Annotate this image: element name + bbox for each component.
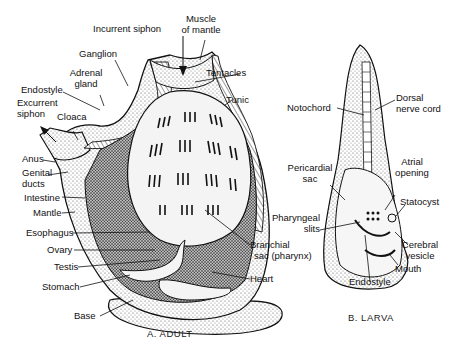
label-ganglion: Ganglion [79,49,117,60]
label-cerebral-vesicle-line2: vesicle [405,250,434,261]
label-cerebral-vesicle: Cerebral vesicle [400,240,440,261]
label-anus: Anus [22,154,44,165]
label-atrial-opening-line2: opening [395,167,429,178]
label-atrial-opening-line1: Atrial [401,156,423,167]
label-pericardial-sac-line1: Pericardial [288,162,333,173]
label-genital-ducts: Genital ducts [22,168,52,189]
label-ovary: Ovary [47,245,72,256]
label-pericardial-sac-line2: sac [303,173,318,184]
label-dorsal-nerve-cord-line1: Dorsal [396,92,423,103]
label-excurrent-siphon-line2: siphon [17,108,45,119]
label-testis: Testis [54,262,78,273]
label-adrenal-gland-line1: Adrenal [70,67,103,78]
label-tunic: Tunic [226,95,249,106]
label-muscle-of-mantle: Muscle of mantle [178,14,224,35]
label-adrenal-gland-line2: gland [74,78,97,89]
label-genital-ducts-line2: ducts [22,178,45,189]
label-cerebral-vesicle-line1: Cerebral [402,239,438,250]
label-endostyle-adult: Endostyle [21,85,63,96]
label-muscle-of-mantle-line2: of mantle [181,24,220,35]
label-pharyngeal-slits-line2: slits [304,223,320,234]
label-excurrent-siphon-line1: Excurrent [17,97,58,108]
label-tentacles: Tentacles [206,68,246,79]
label-notochord: Notochord [287,103,331,114]
label-pharyngeal-slits: Pharyngeal slits [270,213,320,234]
label-atrial-opening: Atrial opening [392,157,432,178]
caption-adult: A. ADULT [147,328,193,339]
label-mantle: Mantle [33,208,62,219]
label-incurrent-siphon: Incurrent siphon [93,24,161,35]
label-dorsal-nerve-cord-line2: nerve cord [396,103,441,114]
label-heart: Heart [250,274,273,285]
label-muscle-of-mantle-line1: Muscle [186,13,216,24]
label-genital-ducts-line1: Genital [22,167,52,178]
label-cloaca: Cloaca [57,112,87,123]
label-pharyngeal-slits-line1: Pharyngeal [272,212,320,223]
label-branchial-sac-line2: sac (pharynx) [250,250,312,261]
label-excurrent-siphon: Excurrent siphon [17,98,58,119]
label-statocyst: Statocyst [400,197,439,208]
caption-larva: B. LARVA [348,312,394,323]
label-branchial-sac-line1: Branchial [250,239,290,250]
label-branchial-sac: Branchial sac (pharynx) [250,240,312,261]
label-base: Base [74,311,96,322]
label-intestine: Intestine [24,193,60,204]
label-mouth: Mouth [395,264,421,275]
label-stomach: Stomach [42,282,80,293]
tunicate-illustration [0,0,457,348]
label-dorsal-nerve-cord: Dorsal nerve cord [396,93,441,114]
label-adrenal-gland: Adrenal gland [64,68,108,89]
label-esophagus: Esophagus [26,228,74,239]
label-pericardial-sac: Pericardial sac [285,163,335,184]
label-endostyle-larva: Endostyle [349,277,391,288]
